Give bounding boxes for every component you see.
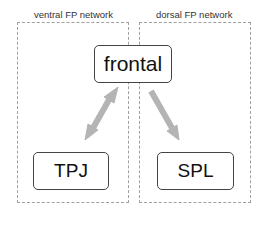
spl-node: SPL (157, 152, 234, 190)
tpj-node: TPJ (33, 152, 109, 190)
bidirectional-arrow-frontal-tpj (85, 87, 118, 140)
frontal-node: frontal (94, 45, 172, 83)
arrow-frontal-to-spl (151, 91, 179, 140)
